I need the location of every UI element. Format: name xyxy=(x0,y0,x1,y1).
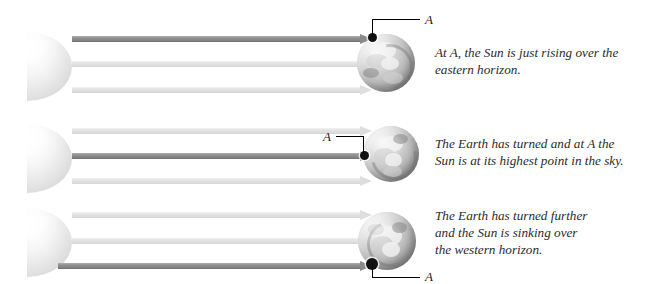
earth-globe xyxy=(357,34,415,92)
sun-ray-light-1 xyxy=(72,61,372,67)
earth-rotation-diagram: A At A, the Sun is just rising over the … xyxy=(0,0,666,284)
leader-line-vertical xyxy=(372,264,373,278)
sun-half-disc xyxy=(27,124,72,193)
sun-half-disc xyxy=(27,32,72,101)
caption-line: The Earth has turned and at A the xyxy=(435,135,665,152)
caption-line: eastern horizon. xyxy=(435,61,665,78)
caption-line: The Earth has turned further xyxy=(435,207,665,224)
leader-line-horizontal xyxy=(336,136,364,137)
ray-shaft xyxy=(72,61,361,67)
label-a: A xyxy=(425,270,433,283)
ray-shaft xyxy=(72,238,361,244)
caption-sunset: The Earth has turned further and the Sun… xyxy=(435,207,665,258)
ray-arrowhead xyxy=(360,176,372,186)
caption-noon: The Earth has turned and at A the Sun is… xyxy=(435,135,665,169)
ray-shaft xyxy=(72,178,361,184)
sun-ray-dark xyxy=(72,153,372,159)
ray-shaft xyxy=(58,263,361,269)
leader-line-vertical xyxy=(363,136,364,153)
sun-ray-light-2 xyxy=(72,178,372,184)
globe-shading xyxy=(363,126,419,182)
ray-shaft xyxy=(72,87,361,93)
sun-ray-dark xyxy=(72,36,372,42)
sun-ray-light-2 xyxy=(72,87,372,93)
leader-line-horizontal xyxy=(372,19,420,20)
panel-noon: A The Earth has turned and at A the Sun … xyxy=(0,110,666,198)
leader-line-vertical xyxy=(372,19,373,35)
ray-shaft xyxy=(72,212,361,218)
earth-globe xyxy=(363,126,419,182)
ray-shaft xyxy=(72,153,361,159)
caption-line: At A, the Sun is just rising over the xyxy=(435,44,665,61)
sun-ray-dark xyxy=(58,263,372,269)
sun-ray-light-2 xyxy=(72,238,372,244)
label-a: A xyxy=(323,130,331,143)
caption-line: the western horizon. xyxy=(435,241,665,258)
panel-sunrise: A At A, the Sun is just rising over the … xyxy=(0,0,666,110)
globe-shading xyxy=(357,34,415,92)
caption-line: Sun is at its highest point in the sky. xyxy=(435,152,665,169)
panel-sunset: A The Earth has turned further and the S… xyxy=(0,198,666,284)
point-a-marker xyxy=(360,151,369,160)
leader-line-horizontal xyxy=(372,277,420,278)
caption-sunrise: At A, the Sun is just rising over the ea… xyxy=(435,44,665,78)
caption-line: and the Sun is sinking over xyxy=(435,224,665,241)
ray-shaft xyxy=(72,128,361,134)
ray-shaft xyxy=(72,36,361,42)
label-a: A xyxy=(425,13,433,26)
sun-ray-light-1 xyxy=(72,212,372,218)
